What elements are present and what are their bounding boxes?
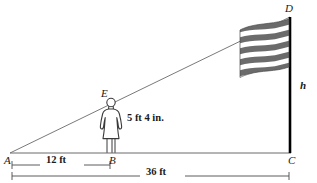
point-label-C: C [288, 155, 295, 166]
segment-ab-label: 12 ft [46, 155, 66, 166]
segment-ac-label: 36 ft [146, 167, 166, 178]
point-label-A: A [4, 155, 11, 166]
point-label-E: E [101, 88, 108, 99]
point-label-D: D [285, 3, 293, 14]
person-height-label: 5 ft 4 in. [127, 113, 164, 124]
point-label-B: B [109, 155, 116, 166]
geometry-figure: A B C D E h 5 ft 4 in. 12 ft 36 ft [0, 0, 317, 183]
pole-height-label: h [300, 80, 306, 91]
person-icon [100, 98, 121, 152]
flag-icon [238, 17, 292, 79]
